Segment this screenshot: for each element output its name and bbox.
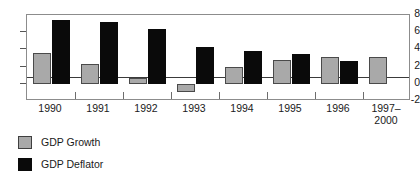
bar-1993-gdp-deflator xyxy=(196,47,214,84)
category-separator xyxy=(363,92,364,99)
bar-1992-gdp-growth xyxy=(129,78,147,84)
legend-swatch-gdp-growth xyxy=(18,136,32,149)
bar-1990-gdp-growth xyxy=(33,53,51,84)
legend-item-gdp-deflator: GDP Deflator xyxy=(18,155,103,173)
category-separator xyxy=(219,92,220,99)
legend-label-gdp-growth: GDP Growth xyxy=(41,136,100,148)
legend-item-gdp-growth: GDP Growth xyxy=(18,133,103,151)
bar-1993-gdp-growth xyxy=(177,84,195,93)
bar-1992-gdp-deflator xyxy=(148,29,166,84)
bar-1991-gdp-deflator xyxy=(100,22,118,84)
bar-1994-gdp-deflator xyxy=(244,51,262,84)
category-separator xyxy=(75,92,76,99)
bar-1996-gdp-growth xyxy=(321,57,339,84)
plot-area xyxy=(26,14,410,100)
x-tick-label: 1991 xyxy=(74,103,122,115)
x-tick-label: 1993 xyxy=(170,103,218,115)
category-separator xyxy=(267,92,268,99)
bar-chart: -202468 19901991199219931994199519961997… xyxy=(0,0,420,180)
x-tick-label: 1990 xyxy=(26,103,74,115)
bar-1995-gdp-deflator xyxy=(292,54,310,84)
chart-legend: GDP Growth GDP Deflator xyxy=(18,133,103,177)
category-separator xyxy=(123,92,124,99)
x-tick-label: 1997–2000 xyxy=(362,103,410,126)
x-tick-label: 1995 xyxy=(266,103,314,115)
x-tick-label: 1992 xyxy=(122,103,170,115)
bar-1997-2000-gdp-growth xyxy=(369,57,387,84)
category-separator xyxy=(171,92,172,99)
legend-label-gdp-deflator: GDP Deflator xyxy=(41,158,103,170)
category-separator xyxy=(315,92,316,99)
bar-1990-gdp-deflator xyxy=(52,20,70,84)
bar-1995-gdp-growth xyxy=(273,60,291,84)
legend-swatch-gdp-deflator xyxy=(18,158,32,171)
bar-1991-gdp-growth xyxy=(81,64,99,84)
x-tick-label: 1996 xyxy=(314,103,362,115)
bar-1996-gdp-deflator xyxy=(340,61,358,84)
x-tick-label: 1994 xyxy=(218,103,266,115)
bar-1994-gdp-growth xyxy=(225,67,243,83)
